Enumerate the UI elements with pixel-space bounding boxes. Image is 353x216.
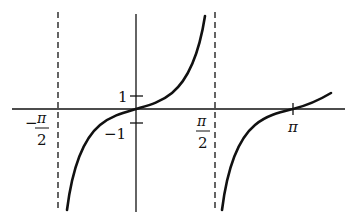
label-pi: π [287, 118, 299, 136]
label-neg-half-pi-den: 2 [37, 131, 47, 149]
label-y-neg-1: −1 [104, 125, 126, 143]
label-neg-half-pi-num: π [36, 110, 47, 126]
label-half-pi-num: π [196, 113, 207, 129]
tan-branch-right [222, 93, 331, 210]
label-half-pi-den: 2 [198, 134, 208, 152]
label-y-1: 1 [118, 88, 128, 106]
tangent-plot: − π 2 π 2 π 1 −1 [0, 0, 353, 216]
label-neg-half-pi-sign: − [25, 114, 38, 132]
